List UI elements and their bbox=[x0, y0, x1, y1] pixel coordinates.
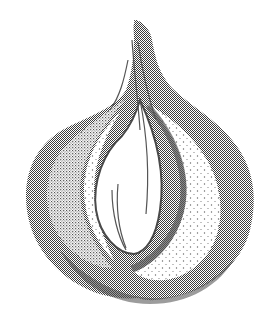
garlic-illustration-canvas bbox=[0, 0, 276, 325]
garlic-bulb-illustration bbox=[0, 0, 276, 325]
